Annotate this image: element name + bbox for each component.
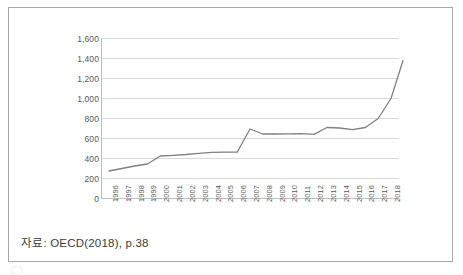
x-tick-2015: 2015: [356, 185, 363, 202]
x-tick-2013: 2013: [330, 185, 337, 202]
x-tick-1996: 1996: [112, 185, 119, 202]
x-tick-2016: 2016: [368, 185, 375, 202]
cropped-marker-icon: [11, 266, 23, 275]
x-tick-2014: 2014: [343, 185, 350, 202]
x-tick-1997: 1997: [125, 185, 132, 202]
x-tick-2009: 2009: [279, 185, 286, 202]
x-tick-2006: 2006: [240, 185, 247, 202]
figure-frame: 1,600 1,400 1,200 1,000 800 600 400 200 …: [8, 7, 453, 262]
x-tick-2008: 2008: [266, 185, 273, 202]
x-axis-tick-labels: 1996199719981999200020012002200320042005…: [9, 8, 454, 263]
source-caption: 자료: OECD(2018), p.38: [21, 234, 149, 250]
x-tick-2018: 2018: [394, 185, 401, 202]
x-tick-2007: 2007: [253, 185, 260, 202]
x-tick-2017: 2017: [381, 185, 388, 202]
x-tick-2001: 2001: [176, 185, 183, 202]
x-tick-2002: 2002: [189, 185, 196, 202]
x-tick-2000: 2000: [163, 185, 170, 202]
x-tick-1998: 1998: [138, 185, 145, 202]
x-tick-1999: 1999: [150, 185, 157, 202]
x-tick-2004: 2004: [215, 185, 222, 202]
x-tick-2003: 2003: [202, 185, 209, 202]
x-tick-2012: 2012: [317, 185, 324, 202]
x-tick-2011: 2011: [304, 186, 311, 202]
x-tick-2005: 2005: [227, 185, 234, 202]
chart-region: 1,600 1,400 1,200 1,000 800 600 400 200 …: [9, 8, 454, 223]
x-tick-2010: 2010: [291, 185, 298, 202]
